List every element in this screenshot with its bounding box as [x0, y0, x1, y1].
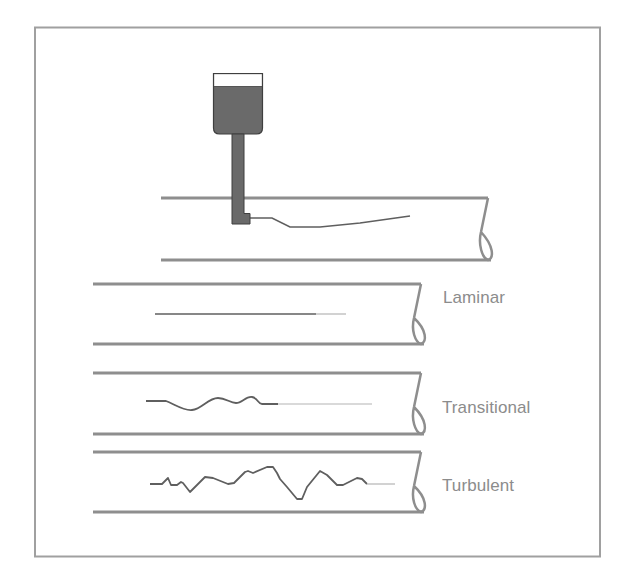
pipe-break-icon [480, 198, 492, 260]
dye-streak [250, 216, 410, 227]
pipe-break-icon [413, 284, 425, 344]
diagram-frame [35, 28, 600, 557]
pipe-break-icon [413, 373, 425, 434]
label-transitional: Transitional [442, 399, 530, 416]
turbulent-dye-line [150, 467, 367, 499]
reynolds-experiment-diagram [0, 0, 631, 588]
pipe-break-icon [413, 452, 425, 512]
transitional-pipe [93, 373, 425, 434]
turbulent-pipe [93, 452, 425, 512]
reservoir-air-gap [214, 74, 262, 86]
laminar-pipe [93, 284, 425, 344]
transitional-dye-line [146, 397, 278, 410]
injector-pipe [161, 198, 492, 260]
injector-needle-icon [232, 134, 250, 224]
label-turbulent: Turbulent [442, 477, 514, 494]
label-laminar: Laminar [443, 289, 505, 306]
dye-injector [214, 74, 263, 225]
